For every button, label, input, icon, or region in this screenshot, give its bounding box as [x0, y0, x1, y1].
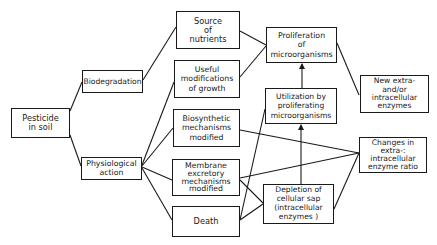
pesticide-flow-diagram: Pesticide in soil Biodegradation Physiol…: [0, 0, 437, 245]
edge-pesticide-biodegradation: [70, 82, 82, 111]
edge-membrane-changes: [240, 153, 359, 178]
node-pesticide-in-soil: Pesticide in soil: [11, 108, 70, 138]
edge-physiological-useful: [142, 82, 174, 165]
node-proliferation: Proliferation of microorganisms: [266, 27, 337, 63]
node-physiological-action: Physiological action: [81, 157, 142, 180]
node-utilization: Utilization by proliferating microorgani…: [265, 88, 337, 124]
edge-physiological-membrane: [142, 167, 172, 180]
edge-source-proliferation: [240, 31, 266, 45]
node-source-of-nutrients: Source of nutrients: [176, 11, 240, 49]
edge-physiological-biosynthetic: [142, 128, 173, 166]
node-biodegradation: Biodegradation: [82, 70, 143, 93]
edge-depletion-changes: [334, 153, 359, 209]
node-useful-modifications: Useful modifications of growth: [174, 60, 240, 98]
node-membrane-excretory: Membrane excretory mechanisms modified: [172, 159, 240, 196]
edge-membrane-depletion: [240, 180, 263, 203]
node-biosynthetic-mechanisms: Biosynthetic mechanisms modified: [173, 109, 240, 147]
edge-death-utilization: [240, 109, 265, 220]
node-depletion-cellular-sap: Depletion of cellular sap (intracellular…: [263, 184, 334, 224]
node-new-enzymes: New extra- and/or intracellular enzymes: [360, 75, 429, 113]
edge-physiological-death: [142, 168, 172, 220]
edge-pesticide-physiological: [70, 135, 81, 166]
edge-biodegradation-source: [143, 27, 176, 80]
node-death: Death: [172, 206, 240, 237]
node-changes-enzyme-ratio: Changes in extra-: intracellular enzyme …: [359, 137, 427, 173]
edge-proliferation-newenzymes: [337, 43, 359, 95]
edge-useful-proliferation: [240, 46, 266, 77]
